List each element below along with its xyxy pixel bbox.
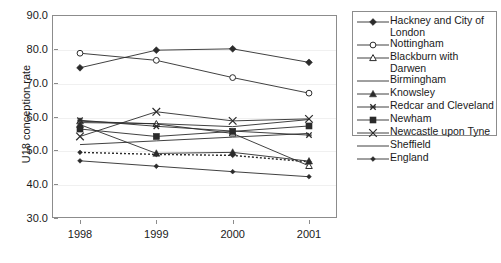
y-axis-tick-label: 60.0 [6,112,48,122]
legend-item-label: Blackburn with Darwen [390,51,494,74]
data-point-marker [76,133,84,141]
series-line [80,53,309,93]
filled-square-icon [356,114,390,126]
data-point-marker [153,133,159,139]
series-line [80,161,309,177]
y-axis-tick-label: 40.0 [6,179,48,189]
x-axis-tick-label: 2001 [297,228,321,240]
legend-marker-filled-square [370,117,376,123]
filled-diamond-icon [356,16,390,28]
y-axis-tick-label: 30.0 [6,213,48,223]
legend-item-label: Nottingham [390,38,444,50]
series-knowsley [77,121,313,164]
y-axis-tick-mark [54,218,58,219]
data-point-marker [306,59,313,66]
series-line [80,121,309,166]
legend-item[interactable]: Blackburn with Darwen [356,51,494,74]
open-triangle-icon [356,52,390,64]
series-sheffield [80,133,309,144]
data-point-marker [306,90,312,96]
small-x-icon [356,101,390,113]
legend-item-label: Knowsley [390,87,435,99]
data-point-marker [307,174,312,179]
data-point-marker [77,50,83,56]
data-point-marker [229,45,236,52]
legend-item[interactable]: Hackney and City of London [356,15,494,38]
series-unlabelled-lower [78,158,312,179]
filled-triangle-icon [356,88,390,100]
y-axis-tick-labels: 90.080.070.060.050.040.030.0 [6,0,48,263]
x-axis-tick-mark [309,220,310,224]
legend-item-label: Hackney and City of London [390,15,494,38]
large-x-icon [356,127,390,139]
data-point-marker [77,64,84,71]
y-axis-tick-label: 90.0 [6,10,48,20]
x-axis-tick-mark [233,220,234,224]
y-axis-tick-label: 80.0 [6,44,48,54]
legend-marker-small-x [370,104,375,109]
legend: Hackney and City of LondonNottinghamBlac… [352,11,497,136]
y-axis-tick-label: 50.0 [6,145,48,155]
series-nottingham [77,50,312,96]
legend-marker-filled-diamond [370,19,377,26]
legend-item-label: England [390,152,429,164]
data-point-marker [153,47,160,54]
data-point-marker [230,169,235,174]
series-newcastle-upon-tyne [76,108,313,140]
data-point-marker [230,128,236,134]
x-axis-tick-label: 2000 [220,228,244,240]
data-point-marker [230,75,236,81]
x-axis-tick-label: 1998 [68,228,92,240]
x-axis-tick-label: 1999 [144,228,168,240]
data-point-marker [153,57,159,63]
open-circle-icon [356,39,390,51]
series-lines-layer [52,15,337,218]
series-hackney-and-city-of-london [77,45,313,71]
series-line [80,49,309,68]
series-line [80,133,309,144]
plain-line-icon [356,75,390,87]
legend-item-label: Newham [390,113,431,125]
data-point-marker [77,126,83,132]
plain-line-icon [356,140,390,152]
x-axis-tick-mark [156,220,157,224]
chart-container: U18 conception rate 90.080.070.060.050.0… [0,0,501,263]
legend-marker-open-circle [370,42,376,48]
small-diamond-icon [356,153,390,165]
legend-item-label: Redcar and Cleveland [390,100,494,112]
data-point-marker [306,123,312,129]
legend-item[interactable]: England [356,152,494,165]
legend-item-label: Newcastle upon Tyne [390,126,490,138]
legend-marker-small-diamond [371,157,376,162]
x-axis-tick-mark [80,220,81,224]
data-point-marker [78,150,83,155]
plot-area: U18 conception rate 90.080.070.060.050.0… [0,0,345,263]
y-axis-tick-label: 70.0 [6,78,48,88]
x-axis-tick-labels: 1998199920002001 [52,220,337,250]
data-point-marker [154,164,159,169]
data-point-marker [78,158,83,163]
legend-item-label: Birmingham [390,74,446,86]
legend-item-label: Sheffield [390,139,431,151]
